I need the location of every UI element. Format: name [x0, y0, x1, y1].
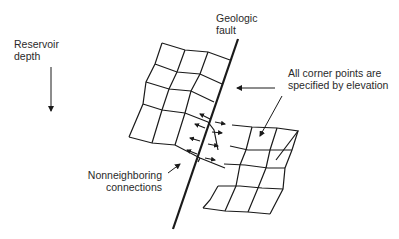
reservoir-depth-line-1: Reservoir [14, 38, 59, 50]
corner-points-label: All corner points are specified by eleva… [288, 67, 388, 91]
diagram-canvas [0, 0, 399, 239]
corner-points-line-1: All corner points are [288, 67, 388, 79]
geologic-fault-label: Geologic fault [216, 12, 257, 36]
nonneighboring-label: Nonneighboring connections [88, 169, 162, 193]
reservoir-depth-line-2: depth [14, 50, 59, 62]
geologic-fault-line-1: Geologic [216, 12, 257, 24]
leader-arrows [168, 88, 282, 173]
nonneighboring-line-1: Nonneighboring [88, 169, 162, 181]
reservoir-depth-label: Reservoir depth [14, 38, 59, 62]
right-grid-block [203, 125, 298, 214]
nonneighboring-line-2: connections [88, 181, 162, 193]
corner-points-line-2: specified by elevation [288, 79, 388, 91]
geologic-fault-line-2: fault [216, 24, 257, 36]
fault-line [173, 39, 238, 229]
